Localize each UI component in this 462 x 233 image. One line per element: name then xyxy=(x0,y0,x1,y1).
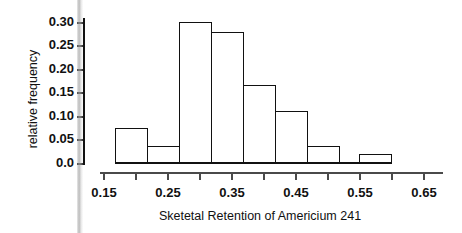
x-axis-label-1: 0.25 xyxy=(138,186,198,200)
x-tick-0.45 xyxy=(295,174,297,180)
x-axis-label-5: 0.65 xyxy=(394,186,454,200)
histogram-figure: 0.30 0.25 0.20 0.15 0.10 0.05 0.0 relati… xyxy=(0,0,462,233)
x-axis-label-3: 0.45 xyxy=(266,186,326,200)
x-tick-0.30 xyxy=(199,174,201,180)
x-axis-title: Sketetal Retention of Americium 241 xyxy=(90,209,430,223)
x-tick-0.35 xyxy=(231,174,233,180)
x-tick-0.15 xyxy=(103,174,105,180)
histogram-bar xyxy=(179,22,212,164)
x-tick-0.55 xyxy=(359,174,361,180)
x-axis-label-2: 0.35 xyxy=(202,186,262,200)
x-tick-0.60 xyxy=(391,174,393,180)
x-tick-0.50 xyxy=(327,174,329,180)
histogram-bar xyxy=(307,146,340,164)
bars-baseline xyxy=(115,162,392,164)
histogram-bar xyxy=(275,111,308,164)
x-tick-0.25 xyxy=(167,174,169,180)
x-tick-0.20 xyxy=(135,174,137,180)
x-axis-label-4: 0.55 xyxy=(330,186,390,200)
histogram-bar xyxy=(243,85,276,164)
x-tick-0.65 xyxy=(423,174,425,180)
histogram-bar xyxy=(211,32,244,164)
histogram-bar xyxy=(147,146,180,164)
histogram-bar xyxy=(115,128,148,164)
x-tick-0.40 xyxy=(263,174,265,180)
x-axis-label-0: 0.15 xyxy=(74,186,134,200)
